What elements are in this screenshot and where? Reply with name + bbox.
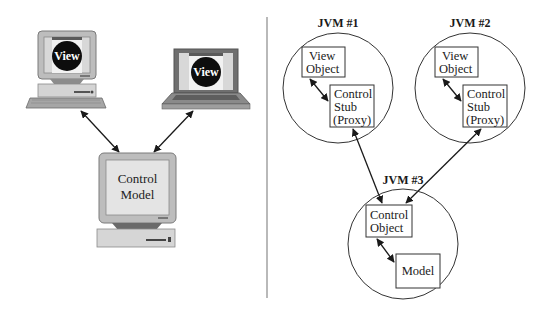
jvm3-control-label-1: Control [370, 208, 409, 222]
jvm1-stub-label-1: Control [334, 87, 373, 101]
jvm1-view-stub-arrow [310, 79, 328, 101]
mvc-distributed-diagram: View View Control Model [0, 0, 547, 315]
laptop-server-arrow [154, 111, 193, 152]
jvm2-stub-label-3: (Proxy) [466, 113, 504, 127]
desktop-view-label: View [54, 49, 80, 63]
server-computer: Control Model [97, 153, 176, 247]
jvm1-jvm3-arrow [353, 129, 382, 203]
jvm1-stub-label-3: (Proxy) [333, 113, 371, 127]
jvm2-view-stub-arrow [443, 79, 461, 101]
jvm3-model-label: Model [402, 264, 435, 278]
jvm1-stub-label-2: Stub [334, 100, 357, 114]
server-label-model: Model [121, 187, 155, 202]
jvm3-title: JVM #3 [383, 173, 424, 187]
desktop-client-computer: View [26, 31, 106, 108]
jvm2-group: JVM #2 View Object Control Stub (Proxy) [415, 16, 525, 143]
laptop-client-computer: View [162, 49, 250, 109]
jvm2-jvm3-arrow [406, 129, 481, 203]
server-label-control: Control [118, 171, 158, 186]
jvm1-group: JVM #1 View Object Control Stub (Proxy) [283, 16, 393, 143]
jvm2-view-label-2: Object [439, 62, 473, 76]
laptop-view-label: View [193, 65, 219, 79]
desktop-server-arrow [81, 111, 119, 152]
jvm1-view-label-2: Object [306, 62, 340, 76]
jvm2-title: JVM #2 [450, 16, 491, 30]
jvm1-view-label-1: View [309, 49, 335, 63]
control-model-arrow [377, 239, 394, 262]
jvm3-control-label-2: Object [370, 221, 404, 235]
jvm2-view-label-1: View [442, 49, 468, 63]
jvm3-group: JVM #3 Control Object Model [348, 173, 458, 299]
jvm2-stub-label-1: Control [467, 87, 506, 101]
jvm2-stub-label-2: Stub [467, 100, 490, 114]
jvm1-title: JVM #1 [318, 16, 359, 30]
